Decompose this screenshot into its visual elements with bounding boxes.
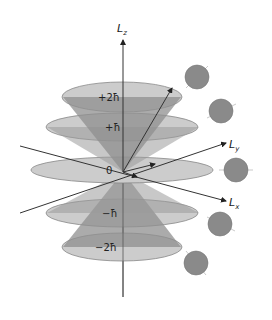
sphere-plus-2: [185, 65, 209, 89]
label-plus-hbar: +ħ: [105, 122, 120, 133]
angular-momentum-diagram: +2ħ +ħ 0 −ħ −2ħ Lz Ly Lx: [0, 0, 272, 320]
lz-label: Lz: [117, 22, 127, 37]
lx-label: Lx: [229, 196, 240, 211]
label-minus-hbar: −ħ: [102, 208, 117, 219]
label-plus-2hbar: +2ħ: [98, 92, 120, 103]
sphere-plus-1: [207, 99, 236, 123]
sphere-minus-1: [207, 212, 235, 236]
sphere-zero: [219, 158, 253, 182]
label-zero: 0: [106, 165, 112, 176]
ly-label: Ly: [229, 138, 240, 153]
sphere-minus-2: [184, 251, 208, 275]
label-minus-2hbar: −2ħ: [95, 242, 117, 253]
